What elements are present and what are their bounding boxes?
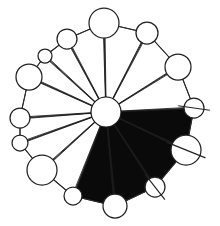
- node-circle-v-upper-left-outer: [57, 29, 77, 49]
- node-circle-v-left-upper: [16, 64, 42, 90]
- node-v-bottom-left: [64, 187, 82, 205]
- figure-root: [0, 0, 220, 226]
- node-circle-v-bottom-left: [64, 187, 82, 205]
- hub-circle: [91, 97, 121, 127]
- node-circle-v-upper-left: [38, 49, 52, 63]
- node-v-upper-left-outer: [57, 29, 77, 49]
- node-v-upper-right: [165, 54, 191, 80]
- node-v-left-lower: [12, 135, 28, 151]
- node-v-lower-left: [27, 155, 57, 185]
- node-circle-v-top: [89, 8, 119, 38]
- node-circle-v-left: [10, 108, 30, 128]
- hub-layer: [91, 97, 121, 127]
- wheel-diagram: [0, 0, 220, 226]
- node-circle-v-top-right: [136, 22, 158, 44]
- node-v-top-right: [136, 22, 158, 44]
- node-circle-v-lower-left: [27, 155, 57, 185]
- node-circle-v-left-lower: [12, 135, 28, 151]
- node-circle-v-bottom: [103, 194, 127, 218]
- node-v-bottom: [103, 194, 127, 218]
- node-circle-v-upper-right: [165, 54, 191, 80]
- node-v-left: [10, 108, 30, 128]
- node-v-upper-left: [38, 49, 52, 63]
- node-v-left-upper: [16, 64, 42, 90]
- node-v-top: [89, 8, 119, 38]
